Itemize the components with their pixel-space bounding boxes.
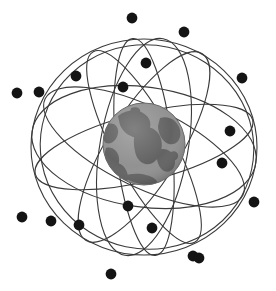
satellite-14 [46, 216, 57, 227]
earth-globe [103, 103, 185, 185]
satellite-19 [194, 253, 205, 264]
satellite-02 [179, 27, 190, 38]
satellite-16 [147, 223, 158, 234]
constellation-diagram [0, 0, 276, 291]
satellite-07 [12, 88, 23, 99]
satellite-08 [34, 87, 45, 98]
satellite-01 [127, 13, 138, 24]
satellite-03 [141, 58, 152, 69]
satellite-18 [106, 269, 117, 280]
satellite-06 [118, 82, 129, 93]
satellite-12 [249, 197, 260, 208]
satellite-04 [71, 71, 82, 82]
satellite-10 [217, 158, 228, 169]
satellite-09 [225, 126, 236, 137]
satellite-constellation-figure: Global satellite constellation orbiting … [0, 0, 276, 291]
satellite-05 [237, 73, 248, 84]
satellite-13 [17, 212, 28, 223]
satellite-15 [74, 220, 85, 231]
satellite-11 [123, 201, 134, 212]
